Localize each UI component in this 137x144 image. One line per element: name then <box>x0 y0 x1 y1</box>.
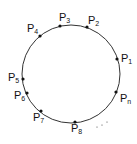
point-p3 <box>58 24 61 27</box>
label-pn: Pn <box>120 92 131 105</box>
label-p7: P7 <box>33 111 44 124</box>
ellipsis-dot <box>101 124 102 125</box>
point-p4 <box>38 34 41 37</box>
label-p6: P6 <box>14 89 25 102</box>
point-p6 <box>25 91 28 94</box>
ellipsis-dots <box>96 121 107 127</box>
labels-layer: P1P2P3P4P5P6P7P8Pn <box>8 11 132 135</box>
label-p1: P1 <box>121 52 132 65</box>
label-p2: P2 <box>88 14 99 27</box>
ellipsis-dot <box>96 126 97 127</box>
ellipsis-dot <box>106 121 107 122</box>
label-p8: P8 <box>71 122 82 135</box>
point-p1 <box>115 57 118 60</box>
point-pn <box>114 90 117 93</box>
circle <box>22 25 120 123</box>
label-p3: P3 <box>59 11 70 24</box>
point-p5 <box>21 77 24 80</box>
circle-points-diagram: P1P2P3P4P5P6P7P8Pn <box>0 0 137 144</box>
label-p5: P5 <box>8 71 19 84</box>
label-p4: P4 <box>27 22 38 35</box>
